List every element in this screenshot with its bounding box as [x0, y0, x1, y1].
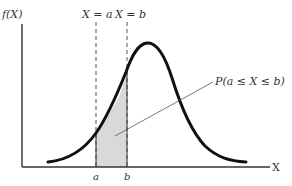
density-curve — [48, 43, 246, 162]
probability-label: P(a ≤ X ≤ b) — [214, 75, 285, 88]
x-axis-label: X — [272, 161, 280, 174]
y-axis-label: f(X) — [1, 8, 23, 21]
line-a-label: X = a — [81, 8, 113, 21]
tick-b-label: b — [124, 171, 130, 182]
shaded-probability-region — [96, 72, 127, 167]
label-leader-line — [115, 82, 213, 136]
diagram-svg: f(X) X = a X = b P(a ≤ X ≤ b) a b X — [0, 0, 292, 186]
line-b-label: X = b — [114, 8, 146, 21]
tick-a-label: a — [93, 171, 99, 182]
probability-density-diagram: f(X) X = a X = b P(a ≤ X ≤ b) a b X — [0, 0, 292, 186]
